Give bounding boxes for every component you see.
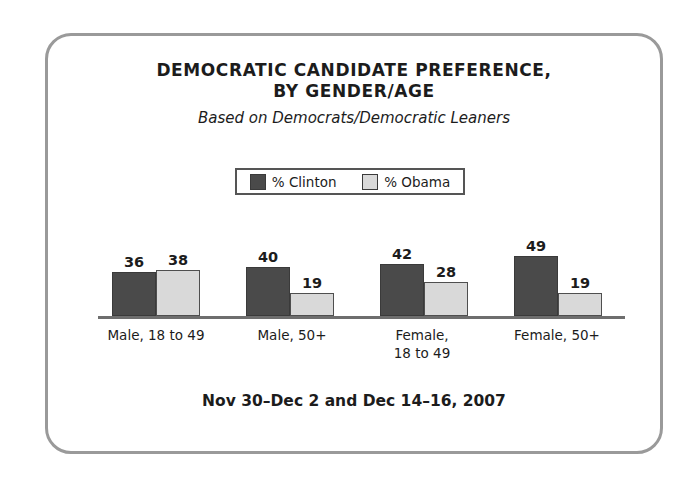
page-title-line2: BY GENDER/AGE	[48, 81, 660, 102]
bar-clinton-male-18-49	[112, 272, 156, 316]
plot-area: 36 38 40 19	[98, 221, 625, 319]
bar-value-label: 38	[156, 252, 200, 268]
page-subtitle: Based on Democrats/Democratic Leaners	[48, 108, 660, 128]
category-labels: Male, 18 to 49 Male, 50+ Female, 18 to 4…	[98, 326, 625, 376]
bar-obama-female-18-49	[424, 282, 468, 316]
bar-wrap: 19	[290, 221, 334, 316]
bar-clinton-female-18-49	[380, 264, 424, 316]
bar-value-label: 36	[112, 254, 156, 270]
bar-obama-female-50plus	[558, 293, 602, 316]
chart-card: DEMOCRATIC CANDIDATE PREFERENCE, BY GEND…	[45, 33, 663, 454]
title-block: DEMOCRATIC CANDIDATE PREFERENCE, BY GEND…	[48, 60, 660, 128]
legend-label-clinton: % Clinton	[272, 174, 337, 190]
bar-wrap: 19	[558, 221, 602, 316]
bar-obama-male-18-49	[156, 270, 200, 316]
bar-value-label: 19	[290, 275, 334, 291]
bar-wrap: 49	[514, 221, 558, 316]
legend-item-obama: % Obama	[362, 174, 450, 190]
bar-clinton-male-50plus	[246, 267, 290, 316]
category-label-female-50plus: Female, 50+	[490, 326, 624, 344]
category-label-female-18-49: Female, 18 to 49	[360, 326, 484, 362]
bar-wrap: 38	[156, 221, 200, 316]
bar-value-label: 28	[424, 264, 468, 280]
chart-legend: % Clinton % Obama	[235, 168, 465, 195]
bar-clinton-female-50plus	[514, 256, 558, 316]
footer-date-range: Nov 30–Dec 2 and Dec 14–16, 2007	[48, 392, 660, 410]
light-gray-swatch-icon	[362, 174, 378, 190]
bar-wrap: 36	[112, 221, 156, 316]
x-axis-baseline	[98, 316, 625, 319]
category-label-male-18-49: Male, 18 to 49	[90, 326, 222, 344]
bar-obama-male-50plus	[290, 293, 334, 316]
legend-item-clinton: % Clinton	[250, 174, 337, 190]
dark-gray-swatch-icon	[250, 174, 266, 190]
bar-wrap: 28	[424, 221, 468, 316]
legend-label-obama: % Obama	[384, 174, 450, 190]
bar-value-label: 42	[380, 246, 424, 262]
page-title: DEMOCRATIC CANDIDATE PREFERENCE,	[48, 60, 660, 81]
category-label-male-50plus: Male, 50+	[230, 326, 354, 344]
bar-value-label: 49	[514, 238, 558, 254]
bar-wrap: 40	[246, 221, 290, 316]
bar-wrap: 42	[380, 221, 424, 316]
bar-value-label: 40	[246, 249, 290, 265]
bar-value-label: 19	[558, 275, 602, 291]
